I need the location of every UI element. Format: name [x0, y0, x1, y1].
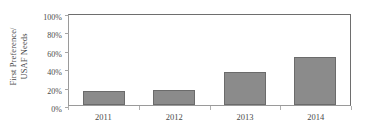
y-axis-tick-mark	[65, 70, 69, 71]
bar-slot	[139, 15, 209, 105]
y-axis-tick-mark	[65, 15, 69, 16]
y-axis-tick-label: 0%	[51, 106, 62, 114]
x-axis-separator-tick	[351, 106, 352, 110]
y-axis-tick-labels: 0%20%40%60%80%100%	[34, 8, 65, 112]
bar-chart: First Preference/ USAF Needs 0%20%40%60%…	[0, 0, 371, 134]
y-axis-tick-label: 100%	[43, 14, 62, 22]
y-axis-tick-label: 20%	[47, 88, 62, 96]
y-axis-tick-mark	[65, 89, 69, 90]
bar-2013[interactable]	[224, 72, 266, 105]
y-axis-tick-label: 60%	[47, 51, 62, 59]
y-axis-tick-label: 40%	[47, 69, 62, 77]
x-axis-separator-tick	[210, 106, 211, 110]
y-axis-tick-label: 80%	[47, 32, 62, 40]
bar-2014[interactable]	[294, 57, 336, 105]
bars-layer	[69, 15, 350, 105]
bar-2011[interactable]	[83, 91, 125, 105]
x-axis-tick-label: 2012	[139, 112, 210, 123]
plot-area	[68, 14, 351, 106]
x-axis-tick-label: 2011	[68, 112, 139, 123]
x-axis-tick-labels: 2011201220132014	[68, 112, 351, 128]
x-axis-separator-tick	[280, 106, 281, 110]
x-axis-tick-label: 2014	[280, 112, 351, 123]
x-axis-separator-tick	[139, 106, 140, 110]
x-axis-tick-label: 2013	[210, 112, 281, 123]
y-axis-tick-mark	[65, 52, 69, 53]
bar-slot	[280, 15, 350, 105]
bar-2012[interactable]	[153, 90, 195, 105]
y-axis-tick-mark	[65, 33, 69, 34]
bar-slot	[69, 15, 139, 105]
bar-slot	[210, 15, 280, 105]
y-axis-title-line-2: USAF Needs	[18, 27, 29, 85]
y-axis-title-line-1: First Preference/	[8, 27, 18, 85]
x-axis-separator-tick	[68, 106, 69, 110]
y-axis-title: First Preference/ USAF Needs	[0, 0, 36, 112]
